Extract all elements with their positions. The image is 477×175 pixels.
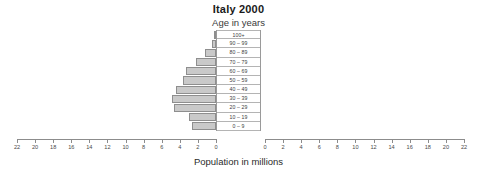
bar-male-09 (192, 122, 216, 130)
axis-tick-label: 10 (352, 144, 358, 150)
axis-tick-label: 22 (461, 144, 467, 150)
axis-tick (392, 139, 393, 143)
axis-tick (374, 139, 375, 143)
axis-tick (180, 139, 181, 143)
chart-title: Italy 2000 (0, 3, 477, 15)
axis-tick-label: 12 (104, 144, 110, 150)
axis-tick (410, 139, 411, 143)
axis-tick-label: 14 (86, 144, 92, 150)
x-axis-title: Population in millions (0, 156, 477, 167)
axis-tick (35, 139, 36, 143)
age-group-label: 50 – 59 (217, 76, 260, 85)
axis-tick (53, 139, 54, 143)
axis-tick-label: 4 (178, 144, 181, 150)
axis-tick (337, 139, 338, 143)
x-axis-left (17, 139, 216, 140)
x-axis-right (265, 139, 464, 140)
bar-male-5059 (183, 76, 216, 84)
axis-tick (71, 139, 72, 143)
age-group-label: 100+ (217, 30, 260, 39)
population-pyramid-chart: Italy 2000 Age in years 100+90 – 9980 – … (0, 0, 477, 175)
axis-tick-label: 0 (263, 144, 266, 150)
bar-male-2029 (174, 104, 216, 112)
axis-tick (283, 139, 284, 143)
age-group-label: 30 – 39 (217, 94, 260, 103)
axis-tick-label: 10 (122, 144, 128, 150)
axis-tick (355, 139, 356, 143)
age-group-label: 80 – 89 (217, 48, 260, 57)
bar-male-8089 (205, 49, 216, 57)
age-group-label: 0 – 9 (217, 122, 260, 131)
bar-male-7079 (196, 58, 216, 66)
axis-tick-label: 14 (389, 144, 395, 150)
axis-tick-label: 12 (370, 144, 376, 150)
age-group-label: 10 – 19 (217, 113, 260, 122)
axis-tick (216, 139, 217, 143)
axis-tick (17, 139, 18, 143)
age-group-label: 70 – 79 (217, 58, 260, 67)
axis-tick-label: 20 (443, 144, 449, 150)
axis-tick (144, 139, 145, 143)
axis-tick-label: 20 (32, 144, 38, 150)
axis-tick-label: 2 (196, 144, 199, 150)
age-group-label: 90 – 99 (217, 39, 260, 48)
bar-male-3039 (172, 95, 216, 103)
axis-tick (446, 139, 447, 143)
plot-area: 100+90 – 9980 – 8970 – 7960 – 6950 – 594… (0, 30, 477, 131)
axis-tick-label: 16 (68, 144, 74, 150)
axis-tick (107, 139, 108, 143)
axis-tick-label: 2 (282, 144, 285, 150)
axis-tick (162, 139, 163, 143)
axis-tick-label: 18 (50, 144, 56, 150)
bar-male-1019 (189, 113, 216, 121)
axis-tick-label: 8 (142, 144, 145, 150)
axis-tick-label: 8 (336, 144, 339, 150)
axis-tick (89, 139, 90, 143)
age-group-label: 20 – 29 (217, 103, 260, 112)
axis-tick (265, 139, 266, 143)
bar-male-6069 (186, 67, 216, 75)
axis-tick (464, 139, 465, 143)
axis-tick-label: 18 (425, 144, 431, 150)
age-group-label-column: 100+90 – 9980 – 8970 – 7960 – 6950 – 594… (216, 30, 261, 131)
axis-tick-label: 0 (214, 144, 217, 150)
bar-male-4049 (176, 86, 216, 94)
axis-tick-label: 16 (407, 144, 413, 150)
axis-tick (198, 139, 199, 143)
axis-tick (319, 139, 320, 143)
axis-tick-label: 4 (300, 144, 303, 150)
age-group-label: 60 – 69 (217, 67, 260, 76)
axis-tick (428, 139, 429, 143)
axis-tick-label: 22 (14, 144, 20, 150)
axis-tick (301, 139, 302, 143)
chart-subtitle: Age in years (0, 17, 477, 28)
axis-tick (126, 139, 127, 143)
age-group-label: 40 – 49 (217, 85, 260, 94)
axis-tick-label: 6 (318, 144, 321, 150)
axis-tick-label: 6 (160, 144, 163, 150)
